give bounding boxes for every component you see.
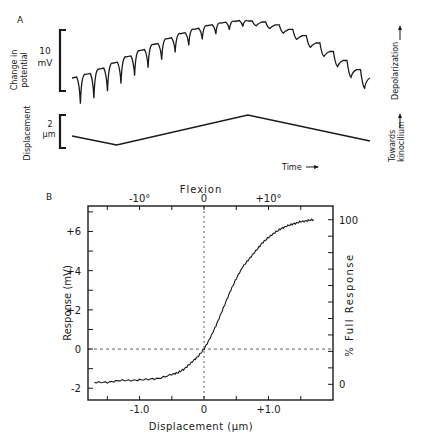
top-tick-label: -10°	[129, 193, 150, 204]
displacement-scale-bar	[60, 115, 66, 148]
right-tick-label: 0	[339, 379, 345, 390]
depolarization-label: Depolarization	[391, 42, 400, 100]
panel-a-label: A	[17, 15, 24, 25]
towards-arrowhead-icon	[398, 113, 402, 118]
time-arrowhead-icon	[314, 165, 319, 169]
potential-scale-bar	[60, 30, 66, 91]
y-tick-label: +6	[66, 226, 81, 237]
potential-scale-value: 10	[39, 46, 51, 56]
displacement-axis-label: Displacement	[23, 106, 32, 161]
y-axis-label: Response (mV)	[62, 265, 73, 341]
displacement-scale-unit: μm	[43, 130, 56, 139]
y-tick-label: -2	[71, 383, 81, 394]
figure: A Change in potential 10 mV Displacement…	[0, 0, 426, 440]
top-tick-label: +10°	[255, 193, 281, 204]
displacement-trace	[72, 115, 370, 145]
y-tick-label: 0	[75, 344, 81, 355]
time-label: Time	[281, 163, 302, 172]
potential-trace	[72, 21, 370, 104]
right-tick-label: 100	[339, 215, 358, 226]
top-tick-label: 0	[201, 193, 207, 204]
x-tick-label: +1.0	[256, 404, 280, 415]
plot-frame	[88, 206, 333, 400]
x-tick-label: -1.0	[130, 404, 150, 415]
potential-scale-unit: mV	[38, 58, 54, 68]
potential-axis-label-1: Change in	[10, 50, 19, 90]
panel-b-label: B	[46, 192, 52, 202]
x-axis-label: Displacement (μm)	[149, 421, 253, 432]
displacement-scale-value: 2	[47, 120, 52, 129]
response-chart: -1.00+1.0-10°0+10°-20+2+4+60100	[66, 193, 358, 415]
x-tick-label: 0	[201, 404, 207, 415]
right-axis-label: % Full Response	[344, 253, 355, 357]
towards-label-1: Towards	[388, 130, 397, 163]
depolarization-arrowhead-icon	[398, 25, 402, 30]
towards-label-2: kinocilium	[397, 121, 406, 162]
potential-axis-label-2: potential	[20, 52, 29, 88]
